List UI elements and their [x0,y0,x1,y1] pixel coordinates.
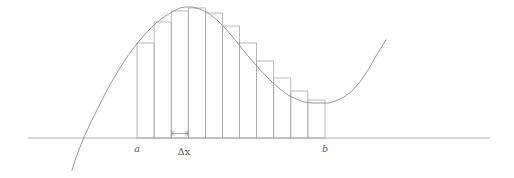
delta-x-dimension-arrow [172,131,188,136]
lower-limit-label: a [134,143,140,154]
riemann-rectangle [240,43,257,138]
riemann-sum-canvas: a b Δx [0,0,514,178]
riemann-rectangle [137,43,154,138]
upper-limit-label: b [322,143,328,154]
riemann-sum-figure: a b Δx [0,0,514,178]
riemann-rectangle [274,78,291,138]
riemann-rectangle [154,22,171,138]
riemann-rectangle [308,100,325,138]
riemann-rectangle [205,13,222,138]
riemann-rectangle [188,8,205,138]
function-curve [72,7,386,170]
riemann-rectangle [171,11,188,138]
delta-x-label: Δx [178,146,191,157]
rectangles-group [137,8,325,138]
riemann-rectangle [257,61,274,138]
